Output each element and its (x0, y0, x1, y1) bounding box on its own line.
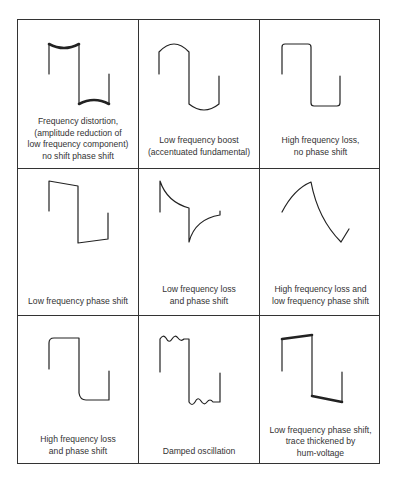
caption: Low frequency phase shift (20, 296, 136, 308)
caption-line: no phase shift (262, 147, 379, 159)
cell-damped-oscillation: Damped oscillation (139, 316, 259, 463)
caption: Low frequency loss and phase shift (141, 284, 257, 307)
cell-high-frequency-loss-phase-shift: High frequency loss and phase shift (18, 316, 138, 463)
caption-line: (amplitude reduction of (20, 128, 136, 140)
caption-line: High frequency loss, (262, 135, 379, 147)
caption: Low frequency boost (accentuated fundame… (141, 135, 257, 158)
caption-line: trace thickened by (262, 436, 379, 448)
caption-line: High frequency loss (20, 434, 136, 446)
caption-line: no shift phase shift (20, 151, 136, 163)
caption-line: and phase shift (141, 296, 257, 308)
cell-frequency-distortion: Frequency distortion, (amplitude reducti… (18, 20, 138, 168)
caption-line: Damped oscillation (141, 446, 257, 458)
caption-line: (accentuated fundamental) (141, 147, 257, 159)
caption-line: hum-voltage (262, 448, 379, 460)
caption-line: High frequency loss and (262, 284, 379, 296)
caption-line: Frequency distortion, (20, 116, 136, 128)
caption: Low frequency phase shift, trace thicken… (262, 425, 379, 460)
cell-high-frequency-loss: High frequency loss, no phase shift (260, 20, 381, 168)
caption: High frequency loss, no phase shift (262, 135, 379, 158)
caption-line: Low frequency phase shift, (262, 425, 379, 437)
caption: High frequency loss and phase shift (20, 434, 136, 457)
waveform-ringing-icon (139, 316, 259, 463)
caption-line: low frequency component) (20, 139, 136, 151)
caption-line: low frequency phase shift (262, 296, 379, 308)
cell-hum-voltage: Low frequency phase shift, trace thicken… (260, 316, 381, 463)
waveform-grid: Frequency distortion, (amplitude reducti… (17, 19, 380, 464)
cell-low-frequency-phase-shift: Low frequency phase shift (18, 169, 138, 315)
caption-line: Low frequency phase shift (20, 296, 136, 308)
cell-high-frequency-loss-low-freq-phase: High frequency loss and low frequency ph… (260, 169, 381, 315)
caption: Frequency distortion, (amplitude reducti… (20, 116, 136, 162)
caption: Damped oscillation (141, 446, 257, 458)
cell-low-frequency-boost: Low frequency boost (accentuated fundame… (139, 20, 259, 168)
caption-line: and phase shift (20, 446, 136, 458)
cell-low-frequency-loss-phase-shift: Low frequency loss and phase shift (139, 169, 259, 315)
caption: High frequency loss and low frequency ph… (262, 284, 379, 307)
waveform-tilt-icon (18, 169, 138, 315)
caption-line: Low frequency loss (141, 284, 257, 296)
caption-line: Low frequency boost (141, 135, 257, 147)
